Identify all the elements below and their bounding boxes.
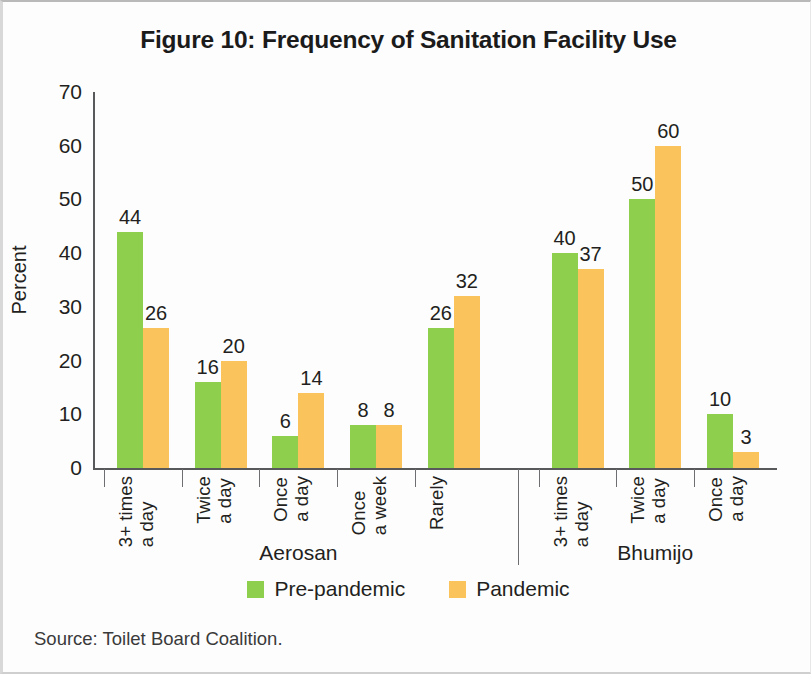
y-axis-tick-label: 0 [70, 456, 82, 480]
bar-value-label: 50 [631, 173, 653, 196]
legend-item[interactable]: Pre-pandemic [247, 577, 405, 601]
bar: 44 [117, 232, 143, 468]
legend-label: Pandemic [476, 577, 569, 601]
x-axis-category-line: Once [271, 476, 291, 522]
y-axis-tick-label: 30 [59, 295, 82, 319]
legend-label: Pre-pandemic [274, 577, 405, 601]
x-axis-group-label: Aerosan [259, 541, 337, 565]
y-axis-line [93, 92, 95, 469]
bar: 32 [454, 296, 480, 468]
x-axis-category-line: a day [727, 476, 747, 522]
bar-value-label: 14 [300, 367, 322, 390]
x-axis-category-line: a day [292, 476, 312, 522]
bar-value-label: 26 [430, 302, 452, 325]
chart-legend: Pre-pandemicPandemic [3, 577, 811, 601]
bar-value-label: 3 [740, 426, 751, 449]
y-axis-tick-label: 20 [59, 349, 82, 373]
bar: 3 [733, 452, 759, 468]
bar: 37 [578, 269, 604, 468]
bar: 6 [272, 436, 298, 468]
x-axis-tick [337, 469, 338, 487]
x-axis-category-line: a day [137, 476, 157, 547]
x-axis-category-line: Twice [628, 476, 648, 524]
bar: 26 [143, 328, 169, 468]
bar-value-label: 6 [280, 410, 291, 433]
bar-value-label: 8 [384, 399, 395, 422]
x-axis-category-line: a day [215, 476, 235, 524]
x-axis-category-label: Oncea day [271, 476, 312, 522]
x-axis-category-label: Twicea day [628, 476, 669, 524]
bar-value-label: 40 [553, 227, 575, 250]
x-axis-line [93, 468, 777, 470]
bar-value-label: 44 [119, 206, 141, 229]
y-axis-tick-label: 60 [59, 134, 82, 158]
x-axis-category-line: a day [649, 476, 669, 524]
legend-swatch [449, 581, 466, 598]
x-axis-category-label: Rarely [427, 476, 447, 530]
bar: 14 [298, 393, 324, 468]
x-axis-category-line: Rarely [427, 476, 447, 530]
x-axis-category-line: a week [370, 476, 390, 535]
x-axis-tick [104, 469, 105, 487]
y-axis-tick-label: 10 [59, 402, 82, 426]
plot-area: Percent 010203040506070 4426162061488263… [93, 92, 777, 468]
bar-value-label: 60 [657, 120, 679, 143]
y-axis-tick-label: 40 [59, 241, 82, 265]
bar-value-label: 32 [456, 270, 478, 293]
source-note: Source: Toilet Board Coalition. [34, 628, 283, 650]
x-axis-tick [259, 469, 260, 487]
x-axis-tick [539, 469, 540, 487]
x-axis-category-label: 3+ timesa day [551, 476, 592, 547]
bar-value-label: 10 [709, 388, 731, 411]
x-axis-category-label: 3+ timesa day [116, 476, 157, 547]
group-divider [518, 469, 520, 565]
y-axis-tick-label: 50 [59, 187, 82, 211]
legend-swatch [247, 581, 264, 598]
bar: 60 [655, 146, 681, 468]
x-axis-tick [415, 469, 416, 487]
x-axis-tick [616, 469, 617, 487]
bar-value-label: 37 [579, 243, 601, 266]
y-axis-tick-label: 70 [59, 80, 82, 104]
x-axis-category-line: Twice [194, 476, 214, 524]
x-axis-category-label: Oncea day [706, 476, 747, 522]
bar-value-label: 8 [358, 399, 369, 422]
y-axis-title: Percent [8, 246, 31, 315]
x-axis-category-label: Oncea week [349, 476, 390, 535]
x-axis-category-line: Once [349, 476, 369, 535]
x-axis-tick [694, 469, 695, 487]
page-title: Figure 10: Frequency of Sanitation Facil… [3, 26, 811, 54]
figure-page: Figure 10: Frequency of Sanitation Facil… [0, 0, 811, 674]
x-axis-category-line: a day [572, 476, 592, 547]
bar: 20 [221, 361, 247, 468]
bar: 10 [707, 414, 733, 468]
bar-value-label: 26 [145, 302, 167, 325]
x-axis-category-line: 3+ times [551, 476, 571, 547]
bar: 8 [350, 425, 376, 468]
x-axis-category-line: 3+ times [116, 476, 136, 547]
bar: 40 [552, 253, 578, 468]
bar-value-label: 20 [223, 335, 245, 358]
bar-value-label: 16 [197, 356, 219, 379]
x-axis-category-line: Once [706, 476, 726, 522]
x-axis-group-label: Bhumijo [617, 541, 693, 565]
x-axis-category-label: Twicea day [194, 476, 235, 524]
bar: 16 [195, 382, 221, 468]
bar: 26 [428, 328, 454, 468]
bar: 50 [629, 199, 655, 468]
x-axis-tick [182, 469, 183, 487]
bar: 8 [376, 425, 402, 468]
legend-item[interactable]: Pandemic [449, 577, 569, 601]
